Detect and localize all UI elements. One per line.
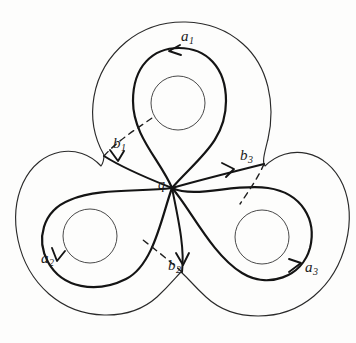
label-a1: a1 (181, 29, 194, 46)
label-b3-sub: 3 (248, 154, 254, 165)
label-b2-sub: 2 (176, 264, 182, 275)
label-a3-base: a (305, 259, 313, 275)
label-b1: b1 (113, 136, 126, 153)
label-b3-base: b (240, 147, 248, 163)
label-b3: b3 (240, 148, 253, 165)
hole-right-circle (235, 210, 289, 264)
a1-arrowhead (169, 45, 181, 55)
label-q-base: q (158, 177, 165, 192)
a1-curve (133, 48, 226, 188)
label-b2: b2 (168, 258, 181, 275)
b3-curve-front (172, 164, 264, 188)
topology-figure: a1 b1 b3 a2 b2 a3 q (0, 0, 356, 343)
label-a1-base: a (181, 28, 189, 44)
label-b1-base: b (113, 135, 121, 151)
a3-curve (172, 187, 312, 280)
a2-curve (42, 188, 172, 287)
label-b2-base: b (168, 257, 176, 273)
hole-left-circle (63, 209, 117, 263)
label-a1-sub: 1 (189, 35, 195, 46)
label-a2-base: a (41, 250, 49, 266)
label-a2: a2 (41, 251, 54, 268)
hole-top-circle (151, 76, 205, 130)
label-q: q (158, 178, 165, 192)
label-a3: a3 (305, 260, 318, 277)
label-a2-sub: 2 (49, 257, 55, 268)
label-a3-sub: 3 (313, 266, 319, 277)
label-b1-sub: 1 (121, 142, 127, 153)
figure-canvas (0, 0, 356, 343)
